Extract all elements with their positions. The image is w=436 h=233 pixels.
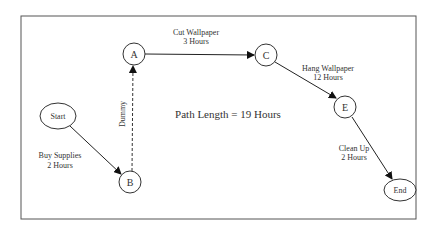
node-b-label: B bbox=[127, 177, 134, 188]
edge-label-buy-supplies: Buy Supplies bbox=[39, 151, 82, 160]
node-start: Start bbox=[40, 103, 76, 129]
edge-label-clean-up-hours: 2 Hours bbox=[341, 153, 367, 162]
edge-a-c bbox=[145, 54, 254, 55]
node-b: B bbox=[119, 171, 141, 193]
edge-b-a-dummy bbox=[132, 66, 133, 171]
network-diagram: Start A B C E End Buy Supplies 2 Hours D… bbox=[0, 0, 436, 233]
edge-start-b bbox=[70, 126, 121, 174]
node-c: C bbox=[255, 44, 277, 66]
edge-label-hang-wallpaper-hours: 12 Hours bbox=[313, 73, 343, 82]
edge-label-cut-wallpaper-hours: 3 Hours bbox=[183, 37, 209, 46]
edge-label-buy-supplies-hours: 2 Hours bbox=[47, 161, 73, 170]
edge-label-clean-up: Clean Up bbox=[339, 144, 369, 153]
node-end-label: End bbox=[394, 186, 407, 195]
edge-label-cut-wallpaper: Cut Wallpaper bbox=[173, 28, 219, 37]
node-a: A bbox=[123, 43, 145, 65]
path-length-title: Path Length = 19 Hours bbox=[175, 108, 281, 120]
node-e-label: E bbox=[342, 102, 348, 113]
edge-label-hang-wallpaper: Hang Wallpaper bbox=[302, 64, 354, 73]
node-end: End bbox=[384, 179, 416, 201]
node-a-label: A bbox=[130, 49, 138, 60]
edge-label-dummy: Dummy bbox=[118, 101, 127, 127]
node-start-label: Start bbox=[50, 112, 66, 121]
node-c-label: C bbox=[263, 50, 270, 61]
node-e: E bbox=[334, 96, 356, 118]
